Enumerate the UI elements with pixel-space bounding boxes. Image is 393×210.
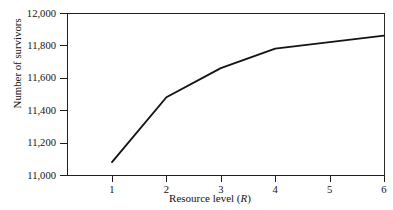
y-tick-11600: [60, 78, 67, 79]
y-axis-line: [67, 13, 68, 176]
x-tick-6: [384, 175, 385, 182]
x-axis-line: [67, 175, 385, 176]
x-tick-label-5: 5: [320, 185, 340, 196]
y-tick-label-12000: 12,000: [0, 9, 56, 20]
x-axis-title-suffix: ): [247, 192, 251, 204]
data-series-line: [112, 36, 384, 162]
x-tick-3: [221, 175, 222, 182]
y-tick-11200: [60, 143, 67, 144]
plot-frame-right: [384, 13, 385, 176]
y-tick-label-11800: 11,800: [0, 41, 56, 52]
y-axis-title: Number of survivors: [12, 0, 23, 128]
y-tick-label-11200: 11,200: [0, 138, 56, 149]
x-tick-4: [275, 175, 276, 182]
y-tick-11800: [60, 45, 67, 46]
y-tick-label-11000: 11,000: [0, 171, 56, 182]
x-tick-2: [166, 175, 167, 182]
chart-figure: 11,000 11,200 11,400 11,600 11,800 12,00…: [0, 0, 393, 210]
x-tick-5: [330, 175, 331, 182]
y-tick-11400: [60, 110, 67, 111]
plot-frame-top: [67, 13, 385, 14]
x-tick-label-6: 6: [374, 185, 393, 196]
x-axis-title: Resource level (R): [120, 193, 300, 204]
y-tick-11000: [60, 175, 67, 176]
x-tick-1: [112, 175, 113, 182]
y-tick-label-11600: 11,600: [0, 73, 56, 84]
x-axis-title-prefix: Resource level (: [169, 192, 240, 204]
y-tick-label-11400: 11,400: [0, 106, 56, 117]
x-tick-label-1: 1: [102, 185, 122, 196]
curve-layer: [0, 0, 393, 210]
y-tick-12000: [60, 13, 67, 14]
